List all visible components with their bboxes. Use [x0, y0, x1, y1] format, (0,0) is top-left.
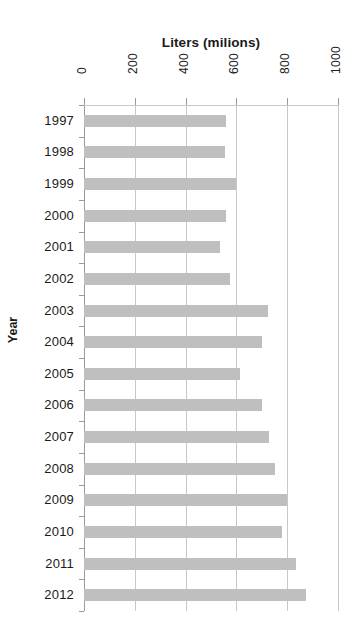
gridline-1000	[338, 105, 339, 611]
y-tick-label-1998: 1998	[44, 144, 74, 159]
y-tick-mark-end	[79, 611, 84, 612]
bar-1997	[84, 115, 226, 127]
bar-2007	[84, 431, 269, 443]
y-tick-label-2010: 2010	[44, 524, 74, 539]
bar-2012	[84, 589, 306, 601]
bar-1998	[84, 146, 225, 158]
y-tick-label-2004: 2004	[44, 334, 74, 349]
bar-2002	[84, 273, 230, 285]
y-axis-tick-labels: 1997199819992000200120022003200420052006…	[0, 105, 84, 611]
y-tick-label-2005: 2005	[44, 366, 74, 381]
y-tick-label-2011: 2011	[45, 556, 74, 571]
x-tick-mark-600	[236, 98, 237, 105]
bar-2006	[84, 399, 262, 411]
x-tick-label-200: 200	[126, 53, 140, 74]
plot-area	[84, 105, 338, 611]
y-tick-label-1999: 1999	[44, 176, 74, 191]
x-tick-mark-800	[287, 98, 288, 105]
bar-2004	[84, 336, 262, 348]
y-tick-label-2012: 2012	[44, 587, 74, 602]
x-tick-label-1000: 1000	[329, 46, 343, 74]
y-tick-label-2008: 2008	[44, 461, 74, 476]
bar-2001	[84, 241, 220, 253]
y-tick-label-1997: 1997	[44, 113, 74, 128]
x-axis-tick-labels: 02004006008001000	[0, 0, 354, 100]
y-tick-label-2009: 2009	[44, 492, 74, 507]
bar-2003	[84, 305, 268, 317]
x-tick-label-0: 0	[75, 67, 89, 74]
y-tick-label-2007: 2007	[44, 429, 74, 444]
x-tick-label-800: 800	[278, 53, 292, 74]
bar-2009	[84, 494, 287, 506]
x-tick-label-400: 400	[177, 53, 191, 74]
y-tick-label-2003: 2003	[44, 303, 74, 318]
x-tick-mark-400	[186, 98, 187, 105]
bar-1999	[84, 178, 236, 190]
x-tick-label-600: 600	[227, 53, 241, 74]
bar-2000	[84, 210, 226, 222]
bar-2008	[84, 463, 275, 475]
bars-layer	[84, 105, 338, 611]
x-tick-mark-1000	[338, 98, 339, 105]
y-tick-label-2002: 2002	[44, 271, 74, 286]
bar-chart: Liters (milions) 02004006008001000 19971…	[0, 0, 354, 636]
bar-2010	[84, 526, 282, 538]
x-tick-mark-200	[135, 98, 136, 105]
y-axis-title: Year	[6, 317, 20, 343]
y-tick-label-2001: 2001	[44, 239, 74, 254]
bar-2011	[84, 558, 296, 570]
x-tick-mark-0	[84, 98, 85, 105]
y-tick-label-2000: 2000	[44, 208, 74, 223]
y-tick-label-2006: 2006	[44, 397, 74, 412]
bar-2005	[84, 368, 240, 380]
